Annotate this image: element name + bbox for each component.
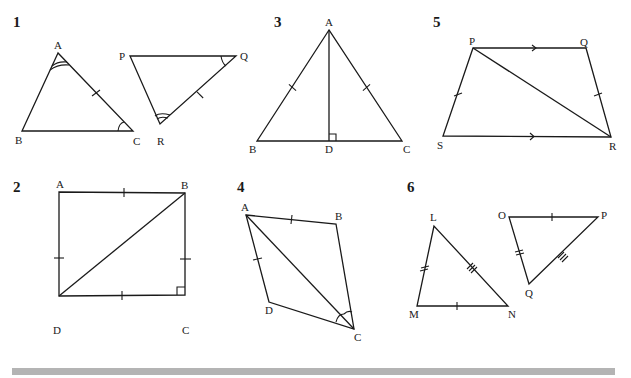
vertex-label-p: P — [119, 50, 125, 62]
vertex-label-p: P — [469, 35, 475, 47]
vertex-label-a: A — [325, 16, 333, 28]
vertex-label-r: R — [609, 140, 617, 152]
tick-qr — [594, 93, 602, 96]
figure-6: 6 L M N O P Q — [407, 179, 607, 320]
vertex-label-r: R — [157, 135, 165, 147]
figure-3: 3 A B D C — [249, 14, 410, 155]
vertex-label-q: Q — [240, 50, 248, 62]
vertex-label-b: B — [181, 179, 188, 191]
vertex-label-b: B — [15, 134, 22, 146]
angle-arc-r-outer — [155, 114, 170, 116]
vertex-label-c: C — [133, 135, 140, 147]
tick-ab — [291, 215, 292, 224]
vertex-label-l: L — [430, 211, 437, 223]
vertex-label-o: O — [498, 209, 506, 221]
vertex-label-a: A — [56, 178, 64, 190]
right-angle-d — [329, 134, 336, 141]
vertex-label-q: Q — [525, 287, 533, 299]
figure-1: 1 A B C P Q R — [13, 14, 248, 147]
tick-qr — [197, 91, 203, 99]
vertex-label-s: S — [437, 139, 443, 151]
triangle-pqr — [130, 56, 236, 124]
page-divider-bar — [12, 368, 615, 375]
figure-2: 2 A B C D — [13, 178, 191, 336]
figure-number: 3 — [274, 14, 282, 30]
vertex-label-b: B — [335, 210, 342, 222]
vertex-label-d: D — [53, 324, 61, 336]
diagonal-db — [59, 193, 185, 296]
right-angle-c — [177, 287, 185, 295]
vertex-label-m: M — [409, 308, 419, 320]
geometry-figures: 1 A B C P Q R 3 A B D C — [0, 0, 631, 378]
figure-number: 5 — [433, 14, 441, 30]
vertex-label-n: N — [508, 308, 516, 320]
figure-number: 6 — [407, 179, 415, 195]
vertex-label-a: A — [241, 201, 249, 213]
trapezium-pqrs — [443, 48, 611, 137]
vertex-label-c: C — [403, 143, 410, 155]
figure-5: 5 P Q R S — [433, 14, 617, 152]
vertex-label-d: D — [325, 143, 333, 155]
vertex-label-c: C — [354, 331, 361, 343]
figure-number: 2 — [13, 179, 21, 195]
vertex-label-a: A — [54, 39, 62, 51]
triangle-abc — [22, 53, 133, 131]
angle-arc-q — [221, 56, 226, 66]
figure-number: 1 — [13, 14, 21, 30]
angle-arc-c — [118, 122, 124, 131]
vertex-label-p: P — [601, 209, 607, 221]
figure-number: 4 — [237, 179, 245, 195]
vertex-label-b: B — [249, 143, 256, 155]
vertex-label-d: D — [265, 304, 273, 316]
triangle-lmn — [417, 226, 508, 306]
vertex-label-q: Q — [580, 36, 588, 48]
figure-4: 4 A B C D — [237, 179, 361, 343]
vertex-label-c: C — [182, 324, 189, 336]
